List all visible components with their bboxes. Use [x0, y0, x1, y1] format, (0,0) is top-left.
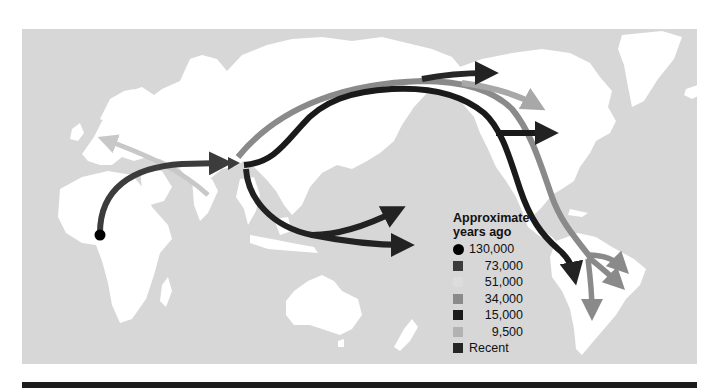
landmass-caribbean: [568, 209, 588, 217]
legend-item: 73,000: [453, 258, 563, 275]
square-swatch-icon: [453, 343, 463, 353]
legend-item-label: Recent: [469, 341, 523, 355]
legend-item-label: 9,500: [469, 325, 523, 339]
legend-item: 15,000: [453, 307, 563, 324]
square-swatch-icon: [453, 261, 463, 271]
legend-item: 51,000: [453, 274, 563, 291]
landmass-iceland: [684, 85, 697, 99]
map-graphic: [22, 29, 697, 364]
landmass-greenland: [618, 31, 682, 107]
square-swatch-icon: [453, 277, 463, 287]
landmass-madagascar: [160, 277, 172, 307]
square-swatch-icon: [453, 310, 463, 320]
legend-title-line1: Approximate: [453, 211, 563, 225]
landmass-british-isles: [70, 123, 84, 141]
landmass-tasmania: [338, 339, 344, 347]
legend-item-label: 51,000: [469, 275, 523, 289]
land-masses: [58, 31, 697, 355]
legend-item: Recent: [453, 340, 563, 357]
legend-item-label: 15,000: [469, 308, 523, 322]
legend: Approximate years ago 130,000 73,000 51,…: [453, 211, 563, 357]
legend-item-label: 73,000: [469, 259, 523, 273]
legend-item: 130,000: [453, 241, 563, 258]
landmass-australia: [286, 275, 362, 335]
origin-dot-africa: [95, 230, 106, 241]
legend-title-line2: years ago: [453, 225, 563, 239]
square-swatch-icon: [453, 327, 463, 337]
circle-swatch-icon: [453, 244, 464, 255]
landmass-indonesia: [250, 235, 318, 253]
legend-item: 34,000: [453, 291, 563, 308]
legend-item: 9,500: [453, 324, 563, 341]
world-map: Approximate years ago 130,000 73,000 51,…: [22, 29, 697, 364]
legend-item-label: 130,000: [469, 242, 523, 256]
legend-item-label: 34,000: [469, 292, 523, 306]
bottom-divider-bar: [22, 382, 697, 388]
landmass-new-zealand: [394, 319, 418, 351]
square-swatch-icon: [453, 294, 463, 304]
route-asia-to-oceania-south: [312, 235, 404, 245]
